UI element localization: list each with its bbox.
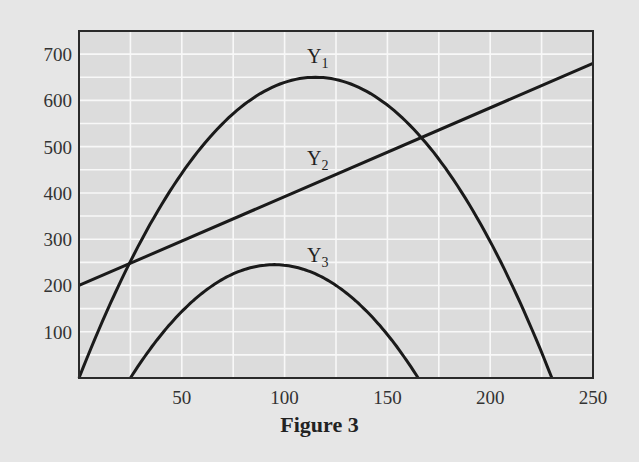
x-axis-tick-labels: 50100150200250 (172, 387, 607, 408)
y-tick-label: 100 (44, 322, 73, 343)
y-tick-label: 500 (44, 137, 73, 158)
x-tick-label: 250 (579, 387, 608, 408)
x-tick-label: 150 (373, 387, 402, 408)
y-tick-label: 600 (44, 90, 73, 111)
chart: 100200300400500600700 50100150200250 Y1Y… (0, 0, 639, 462)
y-tick-label: 400 (44, 183, 73, 204)
y-axis-tick-labels: 100200300400500600700 (44, 44, 73, 343)
x-tick-label: 200 (476, 387, 505, 408)
y-tick-label: 700 (44, 44, 73, 65)
y-tick-label: 200 (44, 275, 73, 296)
figure-caption: Figure 3 (0, 412, 639, 438)
x-tick-label: 50 (172, 387, 191, 408)
x-tick-label: 100 (270, 387, 299, 408)
y-tick-label: 300 (44, 229, 73, 250)
